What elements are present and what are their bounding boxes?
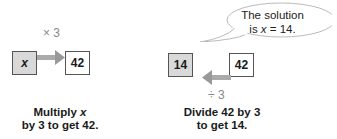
left-caption-line2: by 3 to get 42. <box>10 119 110 132</box>
bubble-line2: is x = 14. <box>225 22 320 36</box>
start-box: 42 <box>229 53 254 77</box>
result-value: 42 <box>71 56 84 70</box>
left-caption-line1: Multiply x <box>10 106 110 119</box>
right-caption-line2: to get 14. <box>167 119 277 132</box>
left-arrow-icon <box>201 70 231 86</box>
left-caption: Multiply x by 3 to get 42. <box>10 106 110 132</box>
bubble-text: The solution is x = 14. <box>225 8 320 36</box>
solution-box: 14 <box>168 53 193 77</box>
multiply-operator-label: × 3 <box>43 26 60 40</box>
result-box: 42 <box>65 51 90 75</box>
variable-label: x <box>21 56 28 70</box>
bubble-line1: The solution <box>225 8 320 22</box>
right-caption-line1: Divide 42 by 3 <box>167 106 277 119</box>
divide-operator-label: ÷ 3 <box>208 88 225 102</box>
right-caption: Divide 42 by 3 to get 14. <box>167 106 277 132</box>
variable-box: x <box>12 51 37 75</box>
start-value: 42 <box>235 58 248 72</box>
right-arrow-icon <box>37 50 67 66</box>
solution-value: 14 <box>174 58 187 72</box>
